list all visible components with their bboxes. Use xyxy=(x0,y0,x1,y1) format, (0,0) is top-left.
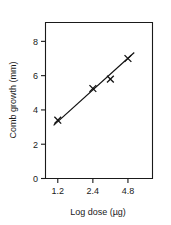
y-axis-tick-labels: 02468 xyxy=(33,37,38,184)
x-axis-label: Log dose (µg) xyxy=(70,207,126,217)
y-tick-label: 6 xyxy=(33,71,38,81)
x-tick-label: 2.4 xyxy=(87,186,100,196)
y-tick-label: 4 xyxy=(33,105,38,115)
plot-frame xyxy=(46,23,153,179)
data-point-marker xyxy=(125,55,132,62)
y-tick-label: 2 xyxy=(33,140,38,150)
x-axis-tick-labels: 1.22.44.8 xyxy=(52,186,135,196)
y-tick-label: 8 xyxy=(33,37,38,47)
figure-container: 02468 1.22.44.8 Log dose (µg) Comb growt… xyxy=(0,0,171,225)
y-axis-label: Comb growth (mm) xyxy=(8,61,18,138)
data-point-marker xyxy=(107,76,114,83)
comb-growth-scatter-chart: 02468 1.22.44.8 Log dose (µg) Comb growt… xyxy=(0,0,171,225)
x-tick-label: 4.8 xyxy=(122,186,135,196)
y-axis-ticks xyxy=(41,41,46,178)
x-tick-label: 1.2 xyxy=(52,186,65,196)
x-axis-ticks xyxy=(58,179,128,184)
y-tick-label: 0 xyxy=(33,174,38,184)
